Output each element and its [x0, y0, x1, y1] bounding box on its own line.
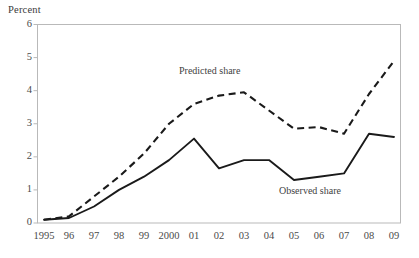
series-line-predicted-share [44, 61, 394, 220]
y-tick-marks [34, 25, 38, 224]
annotation-observed-share: Observed share [279, 185, 341, 196]
series-line-observed-share [44, 134, 394, 220]
plot-area [0, 0, 419, 258]
plot-frame [38, 25, 401, 224]
chart-figure: Percent 0123456 199596979899200001020304… [0, 0, 419, 258]
annotation-predicted-share: Predicted share [179, 65, 240, 76]
